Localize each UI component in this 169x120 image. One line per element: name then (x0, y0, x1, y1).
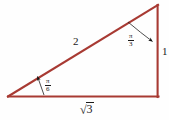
fraction-pi-over-six: π 6 (45, 78, 51, 94)
radicand-value: 3 (86, 102, 94, 115)
triangle-diagram-svg (0, 0, 169, 120)
base-side-length-label: √3 (79, 103, 94, 116)
angle-left-pointer (38, 77, 45, 96)
angle-top-right-label: π 3 (128, 33, 134, 49)
fraction-pi-over-three: π 3 (128, 33, 134, 49)
fraction-denominator: 6 (45, 86, 51, 93)
triangle-figure: 2 1 √3 π 6 π 3 (0, 0, 169, 120)
vertical-side-length-label: 1 (162, 46, 168, 57)
fraction-denominator: 3 (128, 41, 134, 48)
triangle-hypotenuse-side (8, 5, 158, 97)
hypotenuse-length-label: 2 (73, 36, 79, 47)
radical-expression: √3 (79, 103, 94, 116)
angle-left-label: π 6 (45, 78, 51, 94)
